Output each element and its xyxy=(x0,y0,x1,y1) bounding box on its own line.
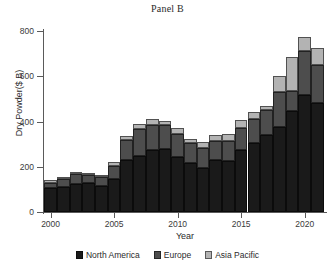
x-tick-mark xyxy=(51,213,52,218)
bar-segment xyxy=(235,150,248,212)
bar-segment xyxy=(197,148,210,168)
bar-column xyxy=(222,31,235,212)
bar-segment xyxy=(108,179,121,212)
chart-figure: Panel B 0200400600800 200020052010201520… xyxy=(0,0,335,269)
bar-segment xyxy=(95,177,108,186)
bar-column xyxy=(248,31,261,212)
bar-segment xyxy=(57,177,70,179)
legend-swatch-icon xyxy=(205,251,212,259)
legend-label: North America xyxy=(86,250,140,260)
bar-segment xyxy=(209,135,222,142)
bar-segment xyxy=(286,91,299,111)
bar-segment xyxy=(197,142,210,148)
bar-segment xyxy=(171,128,184,133)
y-tick-label: 0 xyxy=(0,207,34,217)
bar-segment xyxy=(159,125,172,149)
y-tick-mark xyxy=(37,212,43,213)
bar-segment xyxy=(171,134,184,158)
bar-segment xyxy=(159,121,172,125)
x-tick-mark xyxy=(241,213,242,218)
bar-segment xyxy=(286,57,299,91)
bar-segment xyxy=(133,124,146,129)
bar-segment xyxy=(260,106,273,110)
bar-segment xyxy=(133,156,146,212)
bar-segment xyxy=(95,175,108,177)
legend-item: Asia Pacific xyxy=(205,250,259,260)
bar-segment xyxy=(108,166,121,180)
bar-column xyxy=(120,31,133,212)
bar-column xyxy=(82,31,95,212)
bar-segment xyxy=(248,112,261,119)
bar-column xyxy=(273,31,286,212)
bar-segment xyxy=(82,173,95,175)
bar-segment xyxy=(311,48,324,65)
chart-legend: North AmericaEuropeAsia Pacific xyxy=(0,250,335,260)
bar-segment xyxy=(222,134,235,141)
bar-segment xyxy=(120,136,133,140)
bar-segment xyxy=(248,143,261,212)
bar-column xyxy=(260,31,273,212)
bar-segment xyxy=(248,119,261,143)
bar-segment xyxy=(120,160,133,212)
bar-segment xyxy=(146,150,159,212)
bar-column xyxy=(146,31,159,212)
bar-column xyxy=(171,31,184,212)
bar-segment xyxy=(146,119,159,125)
bar-segment xyxy=(235,128,248,149)
bar-segment xyxy=(120,140,133,160)
bar-segment xyxy=(235,120,248,128)
bar-column xyxy=(298,31,311,212)
legend-swatch-icon xyxy=(76,251,83,259)
bar-column xyxy=(133,31,146,212)
bar-segment xyxy=(184,143,197,163)
bar-segment xyxy=(298,37,311,52)
x-tick-mark xyxy=(305,213,306,218)
bar-segment xyxy=(311,103,324,212)
x-tick-label: 2005 xyxy=(94,219,134,229)
legend-item: Europe xyxy=(154,250,191,260)
bar-segment xyxy=(44,180,57,182)
bar-segment xyxy=(273,127,286,212)
x-tick-label: 2000 xyxy=(31,219,71,229)
bar-column xyxy=(95,31,108,212)
bar-segment xyxy=(57,187,70,212)
bar-segment xyxy=(184,139,197,144)
bar-segment xyxy=(44,188,57,212)
bar-segment xyxy=(159,149,172,212)
bar-segment xyxy=(133,129,146,156)
bar-segment xyxy=(222,141,235,161)
bar-segment xyxy=(70,172,83,174)
x-tick-label: 2020 xyxy=(285,219,325,229)
legend-label: Asia Pacific xyxy=(215,250,259,260)
bar-segment xyxy=(260,110,273,135)
bar-segment xyxy=(222,161,235,212)
bar-column xyxy=(44,31,57,212)
x-tick-label: 2015 xyxy=(221,219,261,229)
x-tick-mark xyxy=(114,213,115,218)
bar-segment xyxy=(273,92,286,127)
x-tick-mark xyxy=(178,213,179,218)
bar-segment xyxy=(82,175,95,183)
bar-segment xyxy=(311,65,324,103)
bar-column xyxy=(311,31,324,212)
bar-column xyxy=(184,31,197,212)
bar-column xyxy=(159,31,172,212)
bar-segment xyxy=(184,163,197,212)
bar-segment xyxy=(146,125,159,150)
bar-segment xyxy=(108,162,121,165)
bar-segment xyxy=(70,184,83,212)
bar-segment xyxy=(273,76,286,92)
bar-segment xyxy=(82,183,95,212)
plot-area xyxy=(43,31,325,212)
x-axis-line xyxy=(43,212,327,213)
bar-column xyxy=(197,31,210,212)
bar-column xyxy=(108,31,121,212)
bar-column xyxy=(209,31,222,212)
x-axis-title: Year xyxy=(43,231,327,241)
legend-label: Europe xyxy=(164,250,191,260)
bar-segment xyxy=(209,141,222,159)
bar-segment xyxy=(57,179,70,187)
bar-segment xyxy=(171,157,184,212)
bar-column xyxy=(70,31,83,212)
bar-column xyxy=(235,31,248,212)
